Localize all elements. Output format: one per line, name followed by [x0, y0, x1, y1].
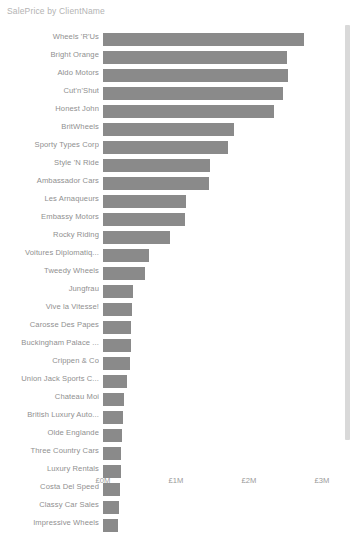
scrollbar-thumb[interactable]	[345, 25, 350, 440]
category-label: Aldo Motors	[0, 68, 99, 77]
bar[interactable]	[103, 231, 170, 244]
category-label: Cut'n'Shut	[0, 86, 99, 95]
category-label: Olde Englande	[0, 428, 99, 437]
category-label: Les Arnaqueurs	[0, 194, 99, 203]
category-label: Honest John	[0, 104, 99, 113]
bar-row[interactable]: Chateau Moi	[0, 390, 341, 408]
x-axis-tick-label: £3M	[314, 476, 329, 485]
chart-title: SalePrice by ClientName	[7, 6, 105, 16]
bar-row[interactable]: Rocky Riding	[0, 228, 341, 246]
x-axis-tick-label: £0M	[95, 476, 110, 485]
category-label: BritWheels	[0, 122, 99, 131]
vertical-scrollbar[interactable]	[344, 22, 351, 472]
bar-row[interactable]: Les Arnaqueurs	[0, 192, 341, 210]
plot-area: Wheels 'R'UsBright OrangeAldo MotorsCut'…	[0, 30, 341, 470]
bar-row[interactable]: Sporty Types Corp	[0, 138, 341, 156]
x-axis-tick-label: £1M	[168, 476, 183, 485]
bar[interactable]	[103, 33, 304, 46]
bar[interactable]	[103, 267, 145, 280]
category-label: Luxury Rentals	[0, 464, 99, 473]
category-label: Jungfrau	[0, 284, 99, 293]
bar-row[interactable]: British Luxury Auto...	[0, 408, 341, 426]
bar[interactable]	[103, 303, 132, 316]
x-axis-tick-label: £2M	[241, 476, 256, 485]
bar[interactable]	[103, 123, 234, 136]
bar[interactable]	[103, 285, 133, 298]
bar-row[interactable]: Carosse Des Papes	[0, 318, 341, 336]
bar-row[interactable]: Three Country Cars	[0, 444, 341, 462]
bar[interactable]	[103, 375, 127, 388]
bar[interactable]	[103, 51, 287, 64]
category-label: Style 'N Ride	[0, 158, 99, 167]
bar-row[interactable]: Jungfrau	[0, 282, 341, 300]
bar[interactable]	[103, 195, 186, 208]
bar-row[interactable]: Ambassador Cars	[0, 174, 341, 192]
bar[interactable]	[103, 69, 288, 82]
bar-row[interactable]: Impressive Wheels	[0, 516, 341, 534]
bar-row[interactable]: Bright Orange	[0, 48, 341, 66]
bar[interactable]	[103, 519, 118, 532]
category-label: Chateau Moi	[0, 392, 99, 401]
category-label: Carosse Des Papes	[0, 320, 99, 329]
bar[interactable]	[103, 501, 119, 514]
category-label: Wheels 'R'Us	[0, 32, 99, 41]
bar-row[interactable]: Aldo Motors	[0, 66, 341, 84]
bar[interactable]	[103, 105, 274, 118]
bar-row[interactable]: Cut'n'Shut	[0, 84, 341, 102]
bar[interactable]	[103, 393, 124, 406]
bar[interactable]	[103, 177, 209, 190]
bar-row[interactable]: Union Jack Sports C...	[0, 372, 341, 390]
bar[interactable]	[103, 447, 121, 460]
category-label: Sporty Types Corp	[0, 140, 99, 149]
bar-row[interactable]: Vive la Vitesse!	[0, 300, 341, 318]
category-label: Rocky Riding	[0, 230, 99, 239]
category-label: Classy Car Sales	[0, 500, 99, 509]
category-label: Voitures Diplomatiq...	[0, 248, 99, 257]
bar[interactable]	[103, 357, 130, 370]
bar-row[interactable]: Wheels 'R'Us	[0, 30, 341, 48]
bar-row[interactable]: Classy Car Sales	[0, 498, 341, 516]
bar-row[interactable]: Embassy Motors	[0, 210, 341, 228]
category-label: Impressive Wheels	[0, 518, 99, 527]
bar[interactable]	[103, 339, 131, 352]
category-label: Vive la Vitesse!	[0, 302, 99, 311]
category-label: Union Jack Sports C...	[0, 374, 99, 383]
bar-row[interactable]: Style 'N Ride	[0, 156, 341, 174]
category-label: Tweedy Wheels	[0, 266, 99, 275]
bar-row[interactable]: Crippen & Co	[0, 354, 341, 372]
bar-row[interactable]: Voitures Diplomatiq...	[0, 246, 341, 264]
bar-row[interactable]: Olde Englande	[0, 426, 341, 444]
x-axis: £0M£1M£2M£3M	[0, 476, 353, 496]
bar[interactable]	[103, 249, 149, 262]
category-label: Embassy Motors	[0, 212, 99, 221]
bar-row[interactable]: Honest John	[0, 102, 341, 120]
category-label: Buckingham Palace ...	[0, 338, 99, 347]
bar-row[interactable]: Tweedy Wheels	[0, 264, 341, 282]
bar[interactable]	[103, 321, 131, 334]
category-label: Crippen & Co	[0, 356, 99, 365]
category-label: Ambassador Cars	[0, 176, 99, 185]
bar[interactable]	[103, 411, 123, 424]
category-label: Three Country Cars	[0, 446, 99, 455]
bar[interactable]	[103, 429, 122, 442]
bar[interactable]	[103, 159, 210, 172]
bar[interactable]	[103, 141, 228, 154]
bar[interactable]	[103, 213, 185, 226]
category-label: British Luxury Auto...	[0, 410, 99, 419]
bar-row[interactable]: BritWheels	[0, 120, 341, 138]
bar-row[interactable]: Buckingham Palace ...	[0, 336, 341, 354]
bar[interactable]	[103, 87, 283, 100]
category-label: Bright Orange	[0, 50, 99, 59]
